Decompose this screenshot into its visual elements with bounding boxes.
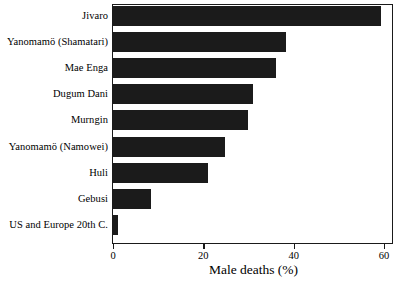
category-label: Yanomamö (Shamatari) xyxy=(0,32,108,52)
category-axis-labels: JivaroYanomamö (Shamatari)Mae EngaDugum … xyxy=(0,5,108,243)
bar-fill xyxy=(113,110,248,130)
bar xyxy=(113,163,208,183)
bar-fill xyxy=(113,137,225,157)
bar-fill xyxy=(113,58,276,78)
bar-fill xyxy=(113,163,208,183)
category-label: Huli xyxy=(0,163,108,183)
category-label: Dugum Dani xyxy=(0,84,108,104)
category-label: Mae Enga xyxy=(0,58,108,78)
bars-container xyxy=(113,5,393,243)
male-deaths-bar-chart: JivaroYanomamö (Shamatari)Mae EngaDugum … xyxy=(0,0,401,283)
bar-fill xyxy=(113,6,381,26)
bar-fill xyxy=(113,189,151,209)
bar-fill xyxy=(113,32,286,52)
category-label: Murngin xyxy=(0,110,108,130)
x-axis-title: Male deaths (%) xyxy=(113,261,394,279)
bar-fill xyxy=(113,215,118,235)
category-label: Jivaro xyxy=(0,6,108,26)
category-label: US and Europe 20th C. xyxy=(0,215,108,235)
bar xyxy=(113,110,248,130)
category-label: Yanomamö (Namowei) xyxy=(0,137,108,157)
bar xyxy=(113,32,286,52)
category-label: Gebusi xyxy=(0,189,108,209)
bar xyxy=(113,215,118,235)
bar xyxy=(113,137,225,157)
bar-fill xyxy=(113,84,253,104)
bar xyxy=(113,189,151,209)
bar xyxy=(113,58,276,78)
bar xyxy=(113,84,253,104)
bar xyxy=(113,6,381,26)
